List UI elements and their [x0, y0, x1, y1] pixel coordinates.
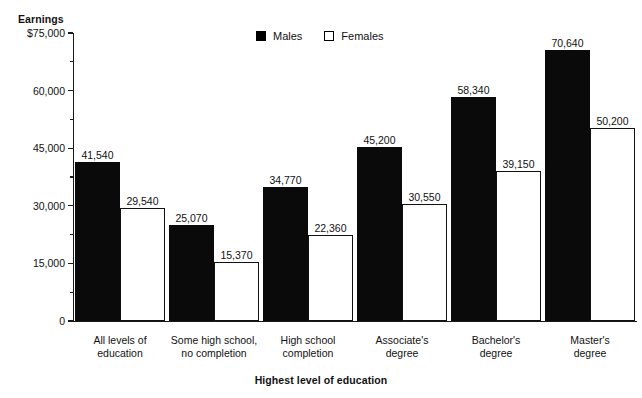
y-tick-minor — [70, 119, 73, 120]
y-axis-title: Earnings — [18, 13, 64, 25]
bar-males: 58,340 — [451, 97, 496, 321]
y-tick-label: $75,000 — [5, 27, 65, 39]
y-tick-major — [68, 90, 73, 91]
y-tick-minor — [70, 61, 73, 62]
y-tick-label: 30,000 — [5, 200, 65, 212]
bar-females: 39,150 — [496, 171, 541, 321]
bar-females: 30,550 — [402, 204, 447, 321]
bar-group: 45,20030,550 — [357, 33, 447, 321]
bar-value-label: 41,540 — [81, 149, 113, 161]
y-tick-label: 45,000 — [5, 142, 65, 154]
plot-area: $75,00060,00045,00030,00015,0000 41,5402… — [73, 33, 637, 321]
y-tick-label: 60,000 — [5, 85, 65, 97]
y-tick-label: 0 — [5, 315, 65, 327]
x-category-label-line: degree — [535, 347, 642, 360]
bar-value-label: 22,360 — [314, 222, 346, 234]
bar-males: 34,770 — [263, 187, 308, 321]
bar-value-label: 45,200 — [363, 134, 395, 146]
bar-value-label: 58,340 — [457, 84, 489, 96]
bar-males: 25,070 — [169, 225, 214, 321]
bar-value-label: 30,550 — [408, 191, 440, 203]
bar-value-label: 70,640 — [551, 37, 583, 49]
y-tick-label: 15,000 — [5, 257, 65, 269]
y-tick-major — [68, 263, 73, 264]
bar-females: 22,360 — [308, 235, 353, 321]
bar-value-label: 15,370 — [220, 249, 252, 261]
y-tick-major — [68, 32, 73, 33]
x-category-label-line: Master's — [535, 334, 642, 347]
y-tick-major — [68, 205, 73, 206]
bar-group: 25,07015,370 — [169, 33, 259, 321]
bar-value-label: 50,200 — [596, 115, 628, 127]
bar-value-label: 34,770 — [269, 174, 301, 186]
bar-value-label: 39,150 — [502, 158, 534, 170]
y-tick-major — [68, 148, 73, 149]
bar-males: 45,200 — [357, 147, 402, 321]
y-tick-minor — [70, 234, 73, 235]
x-category-label: Master'sdegree — [535, 334, 642, 360]
x-axis-line — [73, 321, 637, 322]
bar-group: 41,54029,540 — [75, 33, 165, 321]
y-tick-minor — [70, 292, 73, 293]
bar-group: 34,77022,360 — [263, 33, 353, 321]
clipped-title-remnant — [0, 0, 642, 3]
bar-group: 58,34039,150 — [451, 33, 541, 321]
y-tick-minor — [70, 176, 73, 177]
earnings-by-education-chart: Earnings Males Females $75,00060,00045,0… — [0, 0, 642, 398]
bar-value-label: 25,070 — [175, 212, 207, 224]
bar-females: 29,540 — [120, 208, 165, 321]
bar-males: 41,540 — [75, 162, 120, 322]
y-tick-major — [68, 320, 73, 321]
bar-females: 15,370 — [214, 262, 259, 321]
bar-value-label: 29,540 — [126, 195, 158, 207]
x-axis-title: Highest level of education — [0, 374, 642, 386]
bar-group: 70,64050,200 — [545, 33, 635, 321]
bar-females: 50,200 — [590, 128, 635, 321]
bar-males: 70,640 — [545, 50, 590, 321]
